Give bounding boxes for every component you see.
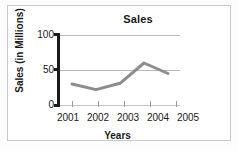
gridline-100 xyxy=(60,35,180,36)
y-tick-label-0: 0 xyxy=(28,99,54,110)
x-axis-tick-2001 xyxy=(72,101,73,107)
y-axis-tick-50 xyxy=(54,68,60,71)
x-tick-label-2002: 2002 xyxy=(81,112,115,123)
x-axis-tick-2005 xyxy=(176,101,177,107)
y-axis-title: Sales (in Millions) xyxy=(14,0,25,106)
x-tick-label-2004: 2004 xyxy=(141,112,175,123)
y-axis-tick-100 xyxy=(54,33,60,36)
gridline-50 xyxy=(60,70,180,71)
x-tick-label-2001: 2001 xyxy=(51,112,85,123)
x-axis-spine xyxy=(60,105,180,106)
x-tick-label-2003: 2003 xyxy=(111,112,145,123)
y-tick-label-50: 50 xyxy=(28,64,54,75)
x-axis-title: Years xyxy=(55,130,180,141)
chart-title: Sales xyxy=(98,13,178,25)
x-axis-tick-2004 xyxy=(150,101,151,107)
x-axis-tick-2003 xyxy=(124,101,125,107)
x-tick-label-2005: 2005 xyxy=(171,112,205,123)
x-axis-tick-2002 xyxy=(98,101,99,107)
y-tick-label-100: 100 xyxy=(28,29,54,40)
chart-figure: Sales Sales (in Millions) Years 100 50 0… xyxy=(0,0,238,151)
plot-area xyxy=(60,35,180,105)
